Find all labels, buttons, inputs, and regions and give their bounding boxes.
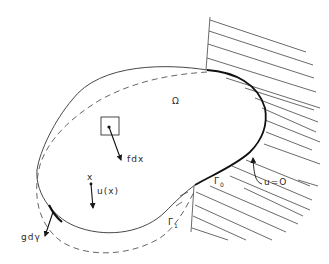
label-displacement: u(x)	[97, 187, 119, 196]
label-omega: Ω	[172, 97, 180, 106]
hatched-support	[176, 17, 320, 240]
wall-edge-top	[206, 17, 210, 70]
label-gamma1: Γ1	[168, 218, 178, 229]
solid-boundary	[37, 67, 207, 233]
diagram-svg	[0, 0, 329, 264]
label-traction: gdγ	[21, 233, 41, 242]
displacement-arrow	[91, 184, 93, 208]
label-gamma1-sub: 1	[174, 222, 178, 229]
wall-edge-bottom	[191, 186, 194, 232]
label-boundary-condition: u=O	[264, 178, 287, 187]
diagram-canvas: Ω fdx x u(x) gdγ Γ0 Γ1 u=O	[0, 0, 329, 264]
label-body-force: fdx	[127, 155, 144, 164]
label-gamma0-sub: 0	[220, 181, 224, 188]
label-point-x: x	[87, 173, 93, 182]
dashed-boundary	[37, 72, 207, 253]
label-gamma0: Γ0	[214, 177, 224, 188]
boundary-condition-leader-arrow	[253, 158, 262, 184]
